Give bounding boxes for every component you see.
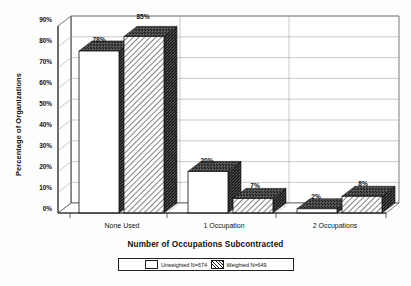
value-label-none-used-weighted: 85% bbox=[126, 13, 160, 20]
value-label-2-occupations-unweighted: 2% bbox=[299, 193, 333, 200]
x-axis-ticks bbox=[70, 213, 386, 218]
legend-item-weighted: Weighted N=649 bbox=[211, 260, 267, 269]
bar-none-used-weighted bbox=[124, 26, 177, 213]
value-label-2-occupations-weighted: 8% bbox=[346, 180, 380, 187]
x-axis-title: Number of Occupations Subcontracted bbox=[0, 240, 411, 249]
x-tick-label-none-used: None Used bbox=[84, 222, 160, 229]
value-label-1-occupation-unweighted: 20% bbox=[190, 157, 224, 164]
value-label-none-used-unweighted: 78% bbox=[82, 36, 116, 43]
legend-swatch-weighted bbox=[211, 260, 224, 269]
x-tick-label-2-occupations: 2 Occupations bbox=[294, 222, 376, 229]
chart-figure: Percentage of Organizations 90% 80% 70% … bbox=[0, 0, 411, 286]
value-label-1-occupation-weighted: 7% bbox=[238, 182, 272, 189]
legend-label-unweighted: Unweighted N=674 bbox=[161, 262, 207, 268]
legend-swatch-unweighted bbox=[145, 260, 158, 269]
legend-item-unweighted: Unweighted N=674 bbox=[145, 260, 207, 269]
x-tick-label-1-occupation: 1 Occupation bbox=[186, 222, 262, 229]
bar-2-occupations-weighted bbox=[342, 186, 395, 213]
bar-1-occupation-weighted bbox=[233, 188, 286, 213]
chart-legend: Unweighted N=674 Weighted N=649 bbox=[118, 258, 294, 271]
legend-label-weighted: Weighted N=649 bbox=[226, 262, 266, 268]
